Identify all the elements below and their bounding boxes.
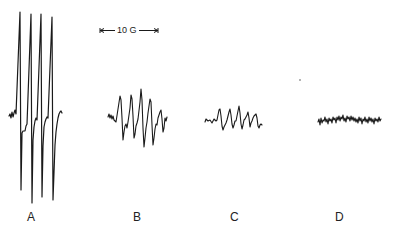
- spectrum-trace-c: [205, 106, 262, 130]
- spectrum-trace-a: [9, 12, 62, 203]
- panel-label-d: D: [335, 210, 344, 224]
- panel-label-c: C: [230, 210, 239, 224]
- panel-label-b: B: [133, 210, 141, 224]
- scale-bar-label: 10 G: [116, 25, 138, 35]
- spectrum-trace-b: [108, 89, 167, 147]
- epr-spectra-figure: [0, 0, 395, 230]
- spectrum-trace-d: [318, 115, 381, 125]
- panel-label-a: A: [27, 210, 35, 224]
- stray-mark: [299, 79, 301, 81]
